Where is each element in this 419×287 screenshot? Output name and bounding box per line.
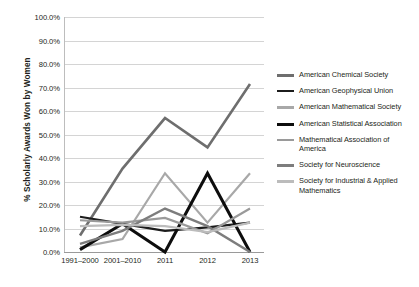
y-axis-tick-label: 50.0% (2, 130, 60, 139)
y-axis-tick-label: 30.0% (2, 177, 60, 186)
legend-item[interactable]: American Chemical Society (277, 70, 417, 79)
y-axis-tick-label: 20.0% (2, 201, 60, 210)
legend-swatch-icon (277, 139, 294, 141)
y-axis-tick-label: 40.0% (2, 154, 60, 163)
line-chart: % Scholarly Awards Won by Women 100.0%90… (0, 0, 419, 287)
legend: American Chemical SocietyAmerican Geophy… (277, 70, 417, 202)
legend-item[interactable]: Society for Industrial & Applied Mathema… (277, 176, 417, 194)
x-axis-tick-labels: 1991–20002001–2010201120122013 (64, 256, 264, 272)
plot-area (64, 17, 264, 252)
legend-item[interactable]: Mathematical Association of America (277, 135, 417, 153)
x-axis-tick-label: 2011 (157, 256, 173, 265)
legend-item[interactable]: American Geophysical Union (277, 86, 417, 95)
legend-item[interactable]: American Statistical Association (277, 119, 417, 128)
legend-item-label: American Mathematical Society (299, 102, 401, 111)
legend-item-label: Society for Neuroscience (299, 160, 380, 169)
y-axis-tick-label: 60.0% (2, 107, 60, 116)
legend-item[interactable]: Society for Neuroscience (277, 160, 417, 169)
legend-swatch-icon (277, 123, 294, 126)
legend-item-label: Society for Industrial & Applied Mathema… (299, 176, 417, 194)
legend-item-label: Mathematical Association of America (299, 135, 417, 153)
y-axis-tick-label: 80.0% (2, 60, 60, 69)
series-line (80, 84, 250, 236)
y-axis-tick-label: 70.0% (2, 83, 60, 92)
series-line (80, 173, 250, 252)
series-svg (64, 17, 264, 252)
legend-swatch-icon (277, 106, 294, 108)
x-axis-tick-label: 2012 (199, 256, 216, 265)
series-lines (64, 17, 264, 252)
legend-swatch-icon (277, 164, 294, 166)
legend-item[interactable]: American Mathematical Society (277, 102, 417, 111)
legend-swatch-icon (277, 74, 294, 77)
y-axis-tick-label: 10.0% (2, 224, 60, 233)
legend-item-label: American Geophysical Union (299, 86, 393, 95)
x-axis-tick-label: 1991–2000 (61, 256, 99, 265)
x-axis-tick-label: 2001–2010 (104, 256, 142, 265)
x-axis-tick-label: 2013 (242, 256, 259, 265)
y-axis-tick-label: 90.0% (2, 36, 60, 45)
legend-item-label: American Chemical Society (299, 70, 388, 79)
legend-swatch-icon (277, 180, 294, 182)
series-line (80, 209, 250, 234)
y-axis-tick-label: 0.0% (2, 248, 60, 257)
legend-swatch-icon (277, 90, 294, 92)
legend-item-label: American Statistical Association (299, 119, 402, 128)
y-axis-tick-label: 100.0% (2, 13, 60, 22)
y-axis-tick-labels: 100.0%90.0%80.0%70.0%60.0%50.0%40.0%30.0… (0, 0, 60, 287)
